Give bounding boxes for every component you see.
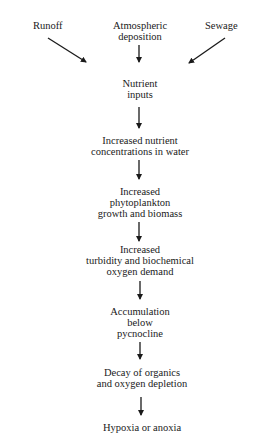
node-nutrient-concentrations: Increased nutrient concentrations in wat… [0, 135, 253, 157]
node-line: oxygen demand [0, 266, 253, 277]
node-turbidity: Increased turbidity and biochemical oxyg… [0, 244, 253, 277]
node-accumulation: Accumulation below pycnocline [0, 306, 253, 339]
node-line: below [0, 317, 253, 328]
node-line: Increased [0, 186, 253, 197]
node-line: Increased nutrient [0, 135, 253, 146]
node-line: Increased [0, 244, 253, 255]
node-line: Nutrient [0, 78, 253, 89]
node-line: concentrations in water [0, 146, 253, 157]
node-line: pycnocline [0, 328, 253, 339]
node-line: Accumulation [0, 306, 253, 317]
source-sewage-label: Sewage [205, 20, 238, 31]
node-phytoplankton: Increased phytoplankton growth and bioma… [0, 186, 253, 219]
node-line: growth and biomass [0, 208, 253, 219]
node-hypoxia: Hypoxia or anoxia [2, 422, 253, 433]
node-line: Hypoxia or anoxia [2, 422, 253, 433]
node-nutrient-inputs: Nutrient inputs [0, 78, 253, 100]
source-atmospheric-line-2: deposition [0, 31, 253, 42]
node-line: inputs [0, 89, 253, 100]
node-line: turbidity and biochemical [0, 255, 253, 266]
node-line: Decay of organics [2, 367, 253, 378]
node-decay: Decay of organics and oxygen depletion [2, 367, 253, 389]
source-sewage: Sewage [205, 20, 238, 31]
node-line: phytoplankton [0, 197, 253, 208]
node-line: and oxygen depletion [2, 378, 253, 389]
